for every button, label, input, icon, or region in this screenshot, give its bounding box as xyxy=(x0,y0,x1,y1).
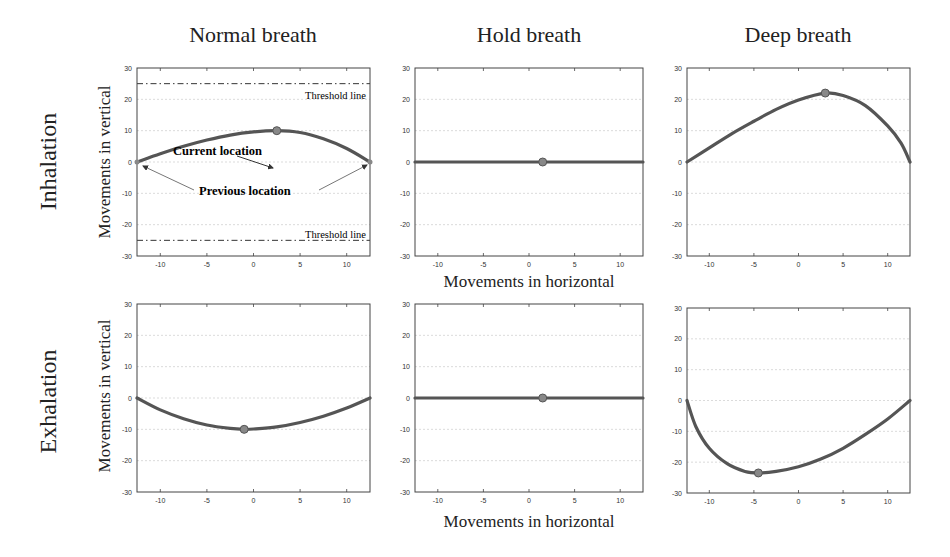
tick-labels: -30-20-100102030-10-50510 xyxy=(672,305,892,506)
plot-inhalation-deep: -30-20-100102030-10-50510 xyxy=(687,68,910,256)
svg-text:-10: -10 xyxy=(155,497,165,504)
svg-text:20: 20 xyxy=(124,96,132,103)
svg-text:10: 10 xyxy=(674,127,682,134)
svg-text:-20: -20 xyxy=(400,221,410,228)
svg-text:10: 10 xyxy=(616,261,624,268)
y-axis-title-inhalation: Movements in vertical xyxy=(95,62,115,262)
svg-text:20: 20 xyxy=(402,332,410,339)
svg-text:0: 0 xyxy=(252,261,256,268)
tick-labels: -30-20-100102030-10-50510 xyxy=(400,301,624,505)
svg-text:0: 0 xyxy=(678,159,682,166)
svg-text:-30: -30 xyxy=(400,253,410,260)
svg-text:-30: -30 xyxy=(672,490,682,497)
plot-exhalation-normal: -30-20-100102030-10-50510 xyxy=(137,304,370,492)
plot-exhalation-deep: -30-20-100102030-10-50510 xyxy=(687,308,910,493)
svg-text:30: 30 xyxy=(674,305,682,312)
svg-text:10: 10 xyxy=(343,261,351,268)
svg-text:0: 0 xyxy=(128,395,132,402)
svg-text:10: 10 xyxy=(402,363,410,370)
svg-text:5: 5 xyxy=(841,261,845,268)
svg-text:0: 0 xyxy=(527,497,531,504)
svg-text:-10: -10 xyxy=(433,497,443,504)
svg-text:-5: -5 xyxy=(204,261,210,268)
row-label-exhalation: Exhalation xyxy=(35,302,62,502)
svg-text:20: 20 xyxy=(674,96,682,103)
svg-text:0: 0 xyxy=(527,261,531,268)
svg-text:10: 10 xyxy=(124,127,132,134)
column-title-deep-breath: Deep breath xyxy=(678,22,918,48)
current-location-marker xyxy=(240,425,248,433)
svg-text:30: 30 xyxy=(402,301,410,308)
svg-text:-10: -10 xyxy=(672,190,682,197)
svg-text:-10: -10 xyxy=(704,498,714,505)
svg-text:5: 5 xyxy=(298,261,302,268)
grid xyxy=(687,68,910,256)
plot-exhalation-hold: -30-20-100102030-10-50510 xyxy=(415,304,643,492)
svg-text:5: 5 xyxy=(573,497,577,504)
svg-text:0: 0 xyxy=(252,497,256,504)
svg-text:20: 20 xyxy=(402,96,410,103)
x-axis-title-bottom: Movements in horizontal xyxy=(399,512,659,532)
current-location-marker xyxy=(273,127,281,135)
svg-text:0: 0 xyxy=(797,498,801,505)
current-location-label: Current location xyxy=(173,144,262,158)
svg-text:-20: -20 xyxy=(400,457,410,464)
current-location-marker xyxy=(821,89,829,97)
trajectory-curve xyxy=(687,93,910,162)
current-location-marker xyxy=(539,394,547,402)
svg-text:-5: -5 xyxy=(480,261,486,268)
svg-text:-5: -5 xyxy=(480,497,486,504)
svg-text:0: 0 xyxy=(406,395,410,402)
svg-text:-10: -10 xyxy=(122,426,132,433)
plot-inhalation-hold: -30-20-100102030-10-50510 xyxy=(415,68,643,256)
svg-text:30: 30 xyxy=(674,65,682,72)
svg-text:-10: -10 xyxy=(672,428,682,435)
svg-text:10: 10 xyxy=(343,497,351,504)
svg-text:30: 30 xyxy=(124,301,132,308)
svg-text:30: 30 xyxy=(124,65,132,72)
svg-text:-10: -10 xyxy=(433,261,443,268)
svg-text:-5: -5 xyxy=(204,497,210,504)
svg-text:-5: -5 xyxy=(751,261,757,268)
svg-text:5: 5 xyxy=(298,497,302,504)
svg-text:-5: -5 xyxy=(751,498,757,505)
previous-location-label: Previous location xyxy=(199,184,291,198)
svg-text:-10: -10 xyxy=(400,426,410,433)
current-location-marker xyxy=(754,469,762,477)
svg-text:30: 30 xyxy=(402,65,410,72)
svg-text:10: 10 xyxy=(616,497,624,504)
svg-text:-10: -10 xyxy=(704,261,714,268)
current-location-marker xyxy=(539,158,547,166)
y-axis-title-exhalation: Movements in vertical xyxy=(95,296,115,496)
plot-inhalation-normal: -30-20-100102030-10-50510Current locatio… xyxy=(137,68,370,256)
svg-text:10: 10 xyxy=(884,498,892,505)
svg-text:0: 0 xyxy=(797,261,801,268)
previous-location-marker xyxy=(135,160,140,165)
svg-text:20: 20 xyxy=(674,335,682,342)
svg-text:-30: -30 xyxy=(122,253,132,260)
tick-labels: -30-20-100102030-10-50510 xyxy=(400,65,624,269)
column-title-normal-breath: Normal breath xyxy=(133,22,373,48)
svg-text:-10: -10 xyxy=(155,261,165,268)
svg-text:10: 10 xyxy=(402,127,410,134)
svg-text:-20: -20 xyxy=(122,457,132,464)
svg-text:-20: -20 xyxy=(672,221,682,228)
grid xyxy=(137,304,370,492)
svg-text:-20: -20 xyxy=(672,459,682,466)
svg-text:0: 0 xyxy=(406,159,410,166)
svg-text:-10: -10 xyxy=(122,190,132,197)
trajectory-curve xyxy=(137,398,370,429)
svg-text:-30: -30 xyxy=(672,253,682,260)
svg-text:-10: -10 xyxy=(400,190,410,197)
column-title-hold-breath: Hold breath xyxy=(409,22,649,48)
row-label-inhalation: Inhalation xyxy=(35,62,62,262)
svg-text:-30: -30 xyxy=(122,489,132,496)
svg-text:10: 10 xyxy=(674,366,682,373)
svg-text:0: 0 xyxy=(678,397,682,404)
svg-text:5: 5 xyxy=(841,498,845,505)
svg-text:20: 20 xyxy=(124,332,132,339)
svg-text:0: 0 xyxy=(128,159,132,166)
svg-text:10: 10 xyxy=(884,261,892,268)
previous-location-marker xyxy=(368,160,373,165)
svg-text:-20: -20 xyxy=(122,221,132,228)
